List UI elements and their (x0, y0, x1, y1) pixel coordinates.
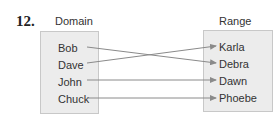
mapping-arrows (0, 0, 274, 119)
